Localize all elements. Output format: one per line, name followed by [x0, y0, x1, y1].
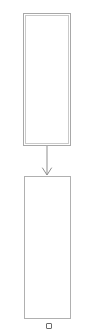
- diagram-canvas[interactable]: [0, 0, 94, 335]
- arrowhead-icon: [43, 168, 52, 175]
- resize-handle-bottom-center[interactable]: [46, 323, 52, 329]
- diagram-node-top[interactable]: [23, 13, 71, 146]
- diagram-node-bottom[interactable]: [24, 176, 71, 319]
- node-top-label: [24, 14, 70, 145]
- node-bottom-label: [25, 177, 70, 318]
